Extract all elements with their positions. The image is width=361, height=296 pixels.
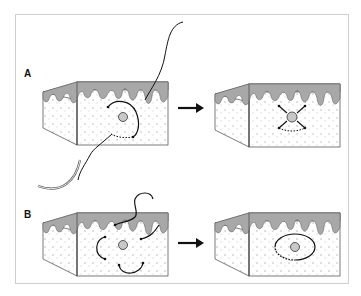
panel-b-after [215, 213, 340, 276]
lesion-icon [119, 113, 128, 122]
panel-a-after [215, 84, 340, 147]
right-arrow-icon [178, 103, 204, 113]
right-arrow-icon [178, 238, 204, 248]
needle-icon [38, 160, 80, 189]
panel-a-before [43, 82, 168, 145]
lesion-icon [291, 243, 300, 252]
diagram-canvas [0, 0, 361, 296]
panel-b-before [43, 193, 168, 276]
lesion-icon [119, 241, 128, 250]
lesion-icon [287, 112, 297, 122]
